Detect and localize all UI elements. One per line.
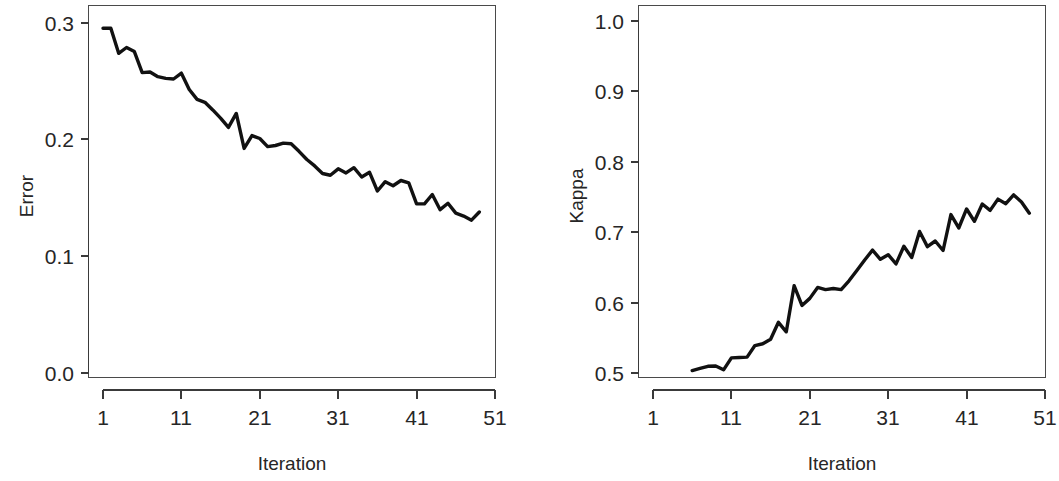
y-tick-label: 0.1 [45,245,74,268]
kappa-y-tick-labels: 1.0 0.9 0.8 0.7 0.6 0.5 [595,10,624,385]
y-tick-label: 1.0 [595,10,624,33]
x-tick-label: 31 [876,406,899,429]
y-tick-label: 0.5 [595,362,624,385]
y-tick-label: 0.0 [45,362,74,385]
kappa-y-axis-title: Kappa [566,168,587,223]
x-tick-label: 41 [405,406,428,429]
y-tick-label: 0.9 [595,80,624,103]
error-y-tick-labels: 0.3 0.2 0.1 0.0 [45,12,74,385]
error-x-axis-title: Iteration [258,453,327,474]
y-tick-label: 0.8 [595,151,624,174]
x-tick-label: 1 [97,406,109,429]
x-tick-label: 31 [326,406,349,429]
kappa-chart-panel: 1.0 0.9 0.8 0.7 0.6 0.5 1 11 [530,0,1059,481]
x-tick-label: 21 [798,406,821,429]
error-series-line [103,28,479,220]
error-chart-svg: 0.3 0.2 0.1 0.0 1 11 21 31 41 [0,0,529,481]
two-panel-figure: 0.3 0.2 0.1 0.0 1 11 21 31 41 [0,0,1059,481]
error-y-axis [81,23,89,373]
x-tick-label: 21 [248,406,271,429]
error-x-tick-labels: 1 11 21 31 41 51 [97,406,507,429]
error-chart-panel: 0.3 0.2 0.1 0.0 1 11 21 31 41 [0,0,529,481]
x-tick-label: 51 [483,406,506,429]
x-tick-label: 51 [1033,406,1056,429]
kappa-x-axis [653,390,1045,399]
error-x-axis [103,390,495,399]
kappa-x-axis-title: Iteration [808,453,877,474]
kappa-chart-svg: 1.0 0.9 0.8 0.7 0.6 0.5 1 11 [530,0,1059,481]
x-tick-label: 11 [720,406,742,429]
y-tick-label: 0.6 [595,292,624,315]
x-tick-label: 11 [170,406,192,429]
error-plot-frame [89,6,496,378]
kappa-x-tick-labels: 1 11 21 31 41 51 [647,406,1057,429]
x-tick-label: 1 [647,406,659,429]
x-tick-label: 41 [955,406,978,429]
y-tick-label: 0.2 [45,128,74,151]
y-tick-label: 0.7 [595,221,624,244]
y-tick-label: 0.3 [45,12,74,35]
kappa-series-line [692,195,1029,371]
kappa-plot-frame [639,6,1046,378]
error-y-axis-title: Error [16,174,37,217]
kappa-y-axis [631,21,639,373]
